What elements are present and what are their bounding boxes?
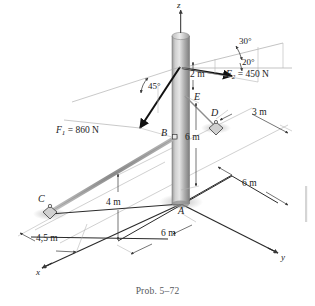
force-f1-label: F1 = 860 N	[56, 126, 99, 137]
point-d-label: D	[211, 108, 218, 118]
y-axis-label: y	[281, 253, 285, 262]
point-e-label: E	[194, 92, 200, 102]
dim-6m-right-label: 6 m	[242, 179, 257, 189]
force-f1-unit: N	[92, 125, 99, 135]
figure-drawing	[0, 0, 315, 306]
force-f2-equals: =	[235, 69, 245, 79]
y-axis-line	[181, 204, 278, 253]
ground-plane-outline	[118, 175, 288, 241]
figure-caption: Prob. 5–72	[0, 286, 315, 296]
statics-figure: z y x A B C D E 30° 20° 45° F2 = 450 N F…	[0, 0, 315, 306]
angle-45-label: 45°	[148, 82, 161, 91]
force-f1-magnitude: 860	[75, 125, 89, 135]
angle-30-label: 30°	[239, 37, 252, 46]
dim-4p5m-label: 4,5 m	[36, 234, 58, 244]
angle-arc-45	[141, 78, 148, 93]
x-axis-label: x	[36, 268, 40, 277]
dim-6m-bottom-label: 6 m	[161, 229, 176, 239]
force-f1-equals: =	[65, 125, 75, 135]
dim-3m-label: 3 m	[252, 108, 267, 118]
angle-20-label: 20°	[242, 58, 255, 67]
dim-2m-label: 2 m	[190, 70, 205, 80]
joint-b	[173, 135, 178, 140]
z-axis-label: z	[177, 1, 181, 10]
force-f2-unit: N	[262, 69, 269, 79]
dim-4m-label: 4 m	[106, 198, 121, 208]
point-c-label: C	[38, 194, 45, 204]
axis-lines-ground	[42, 204, 278, 268]
pole	[172, 32, 190, 207]
force-f2-label: F2 = 450 N	[226, 70, 269, 81]
page-edge-artifact	[305, 186, 307, 222]
force-f2-magnitude: 450	[245, 69, 259, 79]
point-a-label: A	[178, 206, 184, 216]
dim-6m-vertical-label: 6 m	[185, 133, 200, 143]
point-b-label: B	[161, 128, 167, 138]
